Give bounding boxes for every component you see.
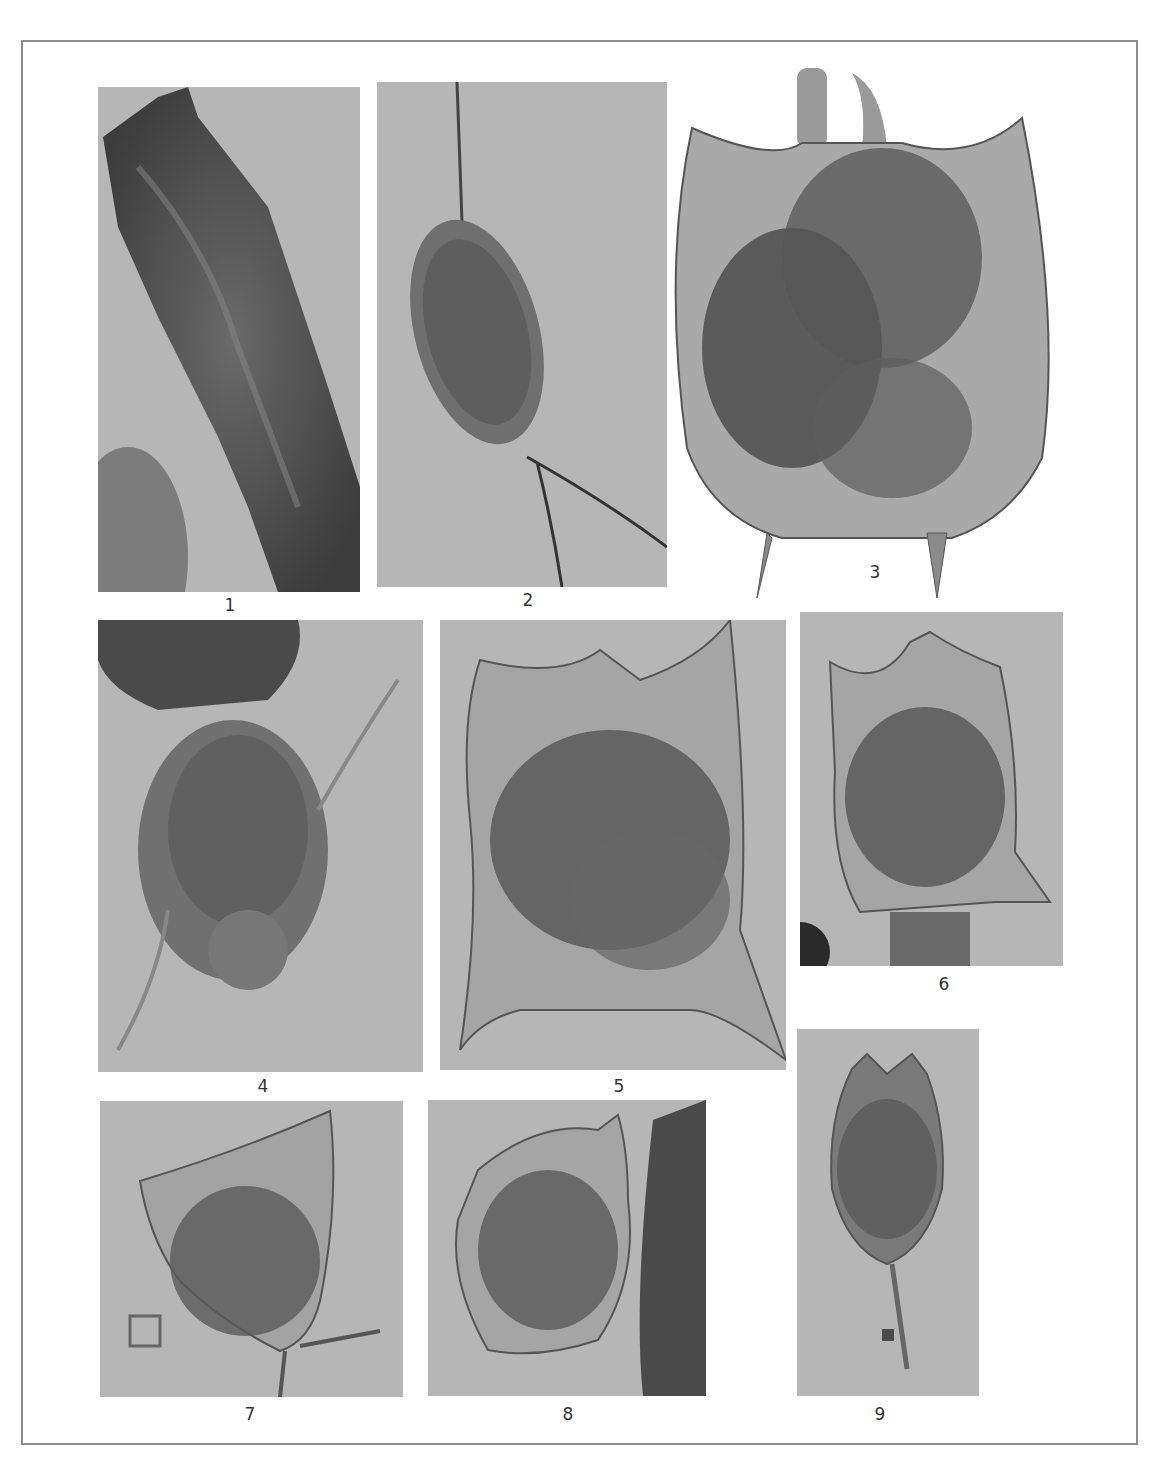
plate-3-photo: [672, 68, 1067, 608]
plate-5-photo: [440, 620, 786, 1070]
plate-4-photo: [98, 620, 423, 1072]
plate-4-label: 4: [248, 1076, 278, 1096]
plate-9-label: 9: [865, 1404, 895, 1424]
plate-8-label: 8: [553, 1404, 583, 1424]
plate-8-photo: [428, 1100, 706, 1396]
plate-5-label: 5: [604, 1076, 634, 1096]
plate-1-label: 1: [215, 595, 245, 615]
plate-7-label: 7: [235, 1404, 265, 1424]
plate-7-photo: [100, 1101, 403, 1397]
plate-1-photo: [98, 87, 360, 592]
plate-2-label: 2: [513, 590, 543, 610]
plate-9-photo: [797, 1029, 979, 1396]
plate-6-photo: [800, 612, 1063, 966]
plate-2-photo: [377, 82, 667, 587]
plate-6-label: 6: [929, 974, 959, 994]
plate-3-label: 3: [860, 562, 890, 582]
